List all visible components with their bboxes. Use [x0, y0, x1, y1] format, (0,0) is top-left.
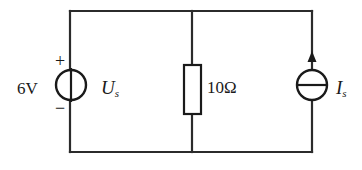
- resistor-symbol: [184, 65, 201, 114]
- voltage-source-name-symbol: U: [101, 77, 115, 98]
- voltage-source-symbol: [56, 68, 86, 102]
- circuit-diagram: 6V Us 10Ω Is + −: [0, 0, 362, 170]
- voltage-source-name-label: Us: [101, 78, 119, 97]
- voltage-source-value-label: 6V: [17, 80, 38, 97]
- resistor-body: [184, 65, 201, 114]
- current-source-name-subscript: s: [342, 87, 346, 99]
- current-source-name-label: Is: [336, 78, 347, 97]
- circuit-schematic-canvas: [0, 0, 362, 170]
- voltage-source-name-subscript: s: [115, 87, 119, 99]
- current-direction-arrow-icon: [308, 51, 317, 62]
- voltage-source-plus-terminal-label: +: [55, 52, 65, 70]
- voltage-source-minus-terminal-label: −: [55, 99, 65, 117]
- current-source-symbol: [297, 51, 327, 100]
- resistor-value-label: 10Ω: [207, 79, 237, 96]
